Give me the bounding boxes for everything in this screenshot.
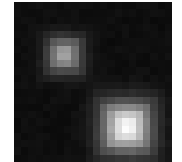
pixel-cell [129,126,136,133]
pixel-cell [28,155,35,162]
pixel-cell [122,67,129,74]
pixel-cell [136,104,143,111]
pixel-cell [129,97,136,104]
pixel-cell [79,140,86,147]
pixel-cell [79,67,86,74]
pixel-cell [136,82,143,89]
pixel-cell [107,82,114,89]
pixel-cell [115,60,122,67]
pixel-cell [79,60,86,67]
pixel-cell [165,140,172,147]
pixel-cell [57,75,64,82]
pixel-cell [79,82,86,89]
pixel-cell [64,38,71,45]
pixel-cell [21,38,28,45]
pixel-cell [122,60,129,67]
pixel-cell [28,147,35,154]
pixel-cell [107,118,114,125]
pixel-cell [107,97,114,104]
pixel-cell [165,75,172,82]
pixel-cell [79,104,86,111]
pixel-cell [143,126,150,133]
pixel-cell [36,60,43,67]
pixel-cell [115,31,122,38]
pixel-cell [50,17,57,24]
pixel-cell [36,104,43,111]
pixel-cell [107,31,114,38]
pixel-cell [143,2,150,9]
pixel-cell [93,104,100,111]
pixel-cell [14,17,21,24]
pixel-cell [86,118,93,125]
pixel-cell [21,140,28,147]
pixel-cell [57,46,64,53]
pixel-cell [150,9,157,16]
pixel-cell [71,140,78,147]
pixel-cell [136,75,143,82]
pixel-cell [129,111,136,118]
pixel-cell [93,111,100,118]
pixel-cell [143,97,150,104]
pixel-cell [21,118,28,125]
pixel-cell [36,111,43,118]
pixel-cell [143,46,150,53]
pixel-cell [165,89,172,96]
pixel-cell [86,2,93,9]
pixel-cell [158,111,165,118]
pixel-cell [64,53,71,60]
pixel-cell [122,140,129,147]
pixel-cell [158,133,165,140]
pixel-cell [115,155,122,162]
pixel-cell [71,111,78,118]
pixel-cell [143,53,150,60]
pixel-cell [28,97,35,104]
pixel-cell [21,24,28,31]
pixel-cell [107,147,114,154]
pixel-cell [21,60,28,67]
pixel-cell [71,82,78,89]
pixel-cell [36,75,43,82]
pixel-cell [93,2,100,9]
pixel-cell [57,2,64,9]
pixel-cell [150,17,157,24]
pixel-cell [36,140,43,147]
pixel-cell [107,9,114,16]
pixel-cell [71,53,78,60]
pixel-cell [57,147,64,154]
pixel-cell [28,9,35,16]
pixel-cell [28,31,35,38]
pixel-cell [122,104,129,111]
pixel-cell [14,53,21,60]
pixel-cell [36,147,43,154]
pixel-cell [129,38,136,45]
pixel-cell [143,31,150,38]
pixel-cell [115,126,122,133]
pixel-cell [21,75,28,82]
pixel-cell [50,67,57,74]
pixel-cell [71,67,78,74]
pixel-cell [50,2,57,9]
pixel-cell [86,24,93,31]
pixel-cell [28,24,35,31]
pixel-cell [43,104,50,111]
pixel-cell [79,89,86,96]
pixel-cell [14,82,21,89]
pixel-cell [57,126,64,133]
pixel-cell [50,140,57,147]
pixel-cell [143,17,150,24]
pixel-cell [129,118,136,125]
pixel-cell [165,24,172,31]
pixel-cell [64,67,71,74]
pixel-cell [158,126,165,133]
pixel-cell [71,133,78,140]
pixel-cell [129,89,136,96]
pixel-cell [143,155,150,162]
pixel-cell [115,89,122,96]
pixel-cell [150,147,157,154]
pixel-cell [71,126,78,133]
pixel-cell [64,147,71,154]
pixel-cell [28,46,35,53]
pixel-cell [28,118,35,125]
pixel-cell [129,104,136,111]
pixel-cell [107,17,114,24]
